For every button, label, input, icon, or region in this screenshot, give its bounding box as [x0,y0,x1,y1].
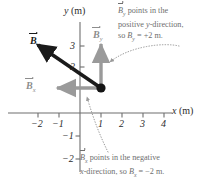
annotation-by-line-2: positive y-direction, [118,19,184,30]
figure-canvas: x (m) y (m) −2 −1 1 2 3 4 3 2 −1 −2 B Bx… [0,0,213,183]
tail-point-dot [96,83,105,92]
vector-Bx-label-text: B [26,81,33,91]
annotation-by-line-2-b: -direction, [150,20,184,29]
annotation-by-line-1-text: points in the [126,6,169,15]
x-tick-label-3: 3 [140,119,145,129]
y-axis-label-unit: (m) [68,5,85,16]
annotation-bx-line-1-text: points in the negative [88,153,160,162]
annotation-bx: Bx points in the negative x-direction, s… [80,152,164,179]
vector-B-label-text: B [30,36,37,46]
vector-By-label-sub: y [100,35,103,42]
annotation-bx-line-2-a: -direction, so [84,167,129,176]
annotation-by-vec-b: B [118,5,123,16]
x-axis-label-unit: (m) [176,105,193,116]
y-tick-label-3: 3 [70,41,75,51]
x-tick-label--2: −2 [31,119,43,129]
y-tick-label--2: −2 [62,154,74,164]
annotation-by: By points in the positive y-direction, s… [118,5,184,44]
annotation-by-line-2-a: positive [118,20,146,29]
annotation-bx-vec-b: B [80,152,85,163]
annotation-bx-line-2-b: = −2 m. [136,167,164,176]
annotation-by-line-3: so By = +2 m. [118,30,184,44]
vector-Bx-label: Bx [26,81,36,94]
vector-By-label-text: B [93,30,100,40]
annotation-by-line-3-b: = +2 m. [135,31,163,40]
x-axis-label: x (m) [172,106,193,116]
y-axis-label: y (m) [64,6,85,16]
vector-By-label: By [93,30,103,43]
annotation-by-line-3-a: so [118,31,127,40]
x-axis [8,113,172,118]
annotation-by-line-1: By points in the [118,5,184,19]
vector-Bx-label-sub: x [33,86,36,93]
vector-B-label: B [30,36,37,46]
x-tick-label-1: 1 [98,119,103,129]
x-tick-label--1: −1 [52,119,64,129]
y-tick-label-2: 2 [70,62,75,72]
y-tick-label--1: −1 [62,131,74,141]
annotation-bx-line-2: x-direction, so Bx = −2 m. [80,166,164,180]
x-tick-label-2: 2 [119,119,124,129]
leader-line-by [110,45,179,62]
x-tick-label-4: 4 [161,119,166,129]
annotation-bx-line-1: Bx points in the negative [80,152,164,166]
